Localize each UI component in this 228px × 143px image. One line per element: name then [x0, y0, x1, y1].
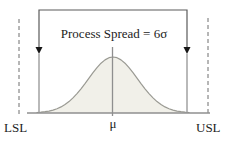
lower-spec-limit-label: LSL	[4, 121, 27, 134]
upper-spec-limit-label: USL	[196, 121, 221, 134]
left-down-arrow-icon	[36, 47, 43, 54]
six-sigma-process-spread-diagram: Process Spread = 6σ μ LSL USL	[0, 0, 228, 143]
right-down-arrow-icon	[184, 47, 191, 54]
process-spread-label: Process Spread = 6σ	[61, 27, 167, 40]
mean-label: μ	[110, 117, 117, 130]
